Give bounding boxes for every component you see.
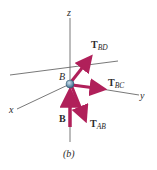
x-axis-label: x — [8, 104, 14, 115]
arrow-t-ab — [72, 87, 85, 119]
free-body-diagram: z x y B TBD TBC TAB B (b) — [0, 0, 157, 170]
axes — [10, 18, 139, 142]
y-axis-label: y — [139, 90, 145, 101]
z-axis-label: z — [66, 7, 71, 18]
node-b — [66, 80, 74, 88]
label-t-bd: TBD — [91, 39, 108, 52]
label-t-ab: TAB — [90, 118, 106, 131]
label-t-bc: TBC — [108, 77, 125, 90]
arrow-t-bc — [72, 85, 103, 89]
label-b-force: B — [59, 113, 66, 124]
force-arrows — [70, 58, 103, 127]
figure-caption: (b) — [63, 148, 75, 160]
point-b-label: B — [59, 71, 65, 82]
x-axis — [17, 84, 70, 109]
arrow-t-bd — [71, 58, 90, 82]
